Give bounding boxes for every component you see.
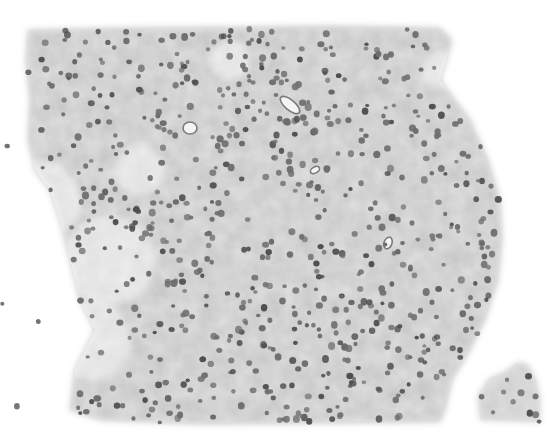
histology-image [0,0,554,436]
